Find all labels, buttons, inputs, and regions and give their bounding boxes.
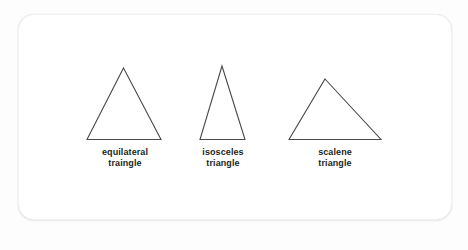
page-root: equilateral traingle isosceles triangle … [0, 0, 468, 250]
scalene-label-line1: scalene [288, 147, 382, 158]
equilateral-label-line1: equilateral [78, 147, 172, 158]
scalene-triangle-label: scalene triangle [288, 147, 382, 169]
equilateral-triangle-label: equilateral traingle [78, 147, 172, 169]
isosceles-label-line2: triangle [183, 158, 263, 169]
isosceles-label-line1: isosceles [183, 147, 263, 158]
scalene-label-line2: triangle [288, 158, 382, 169]
figure-card [18, 14, 452, 220]
isosceles-triangle-label: isosceles triangle [183, 147, 263, 169]
equilateral-label-line2: traingle [78, 158, 172, 169]
